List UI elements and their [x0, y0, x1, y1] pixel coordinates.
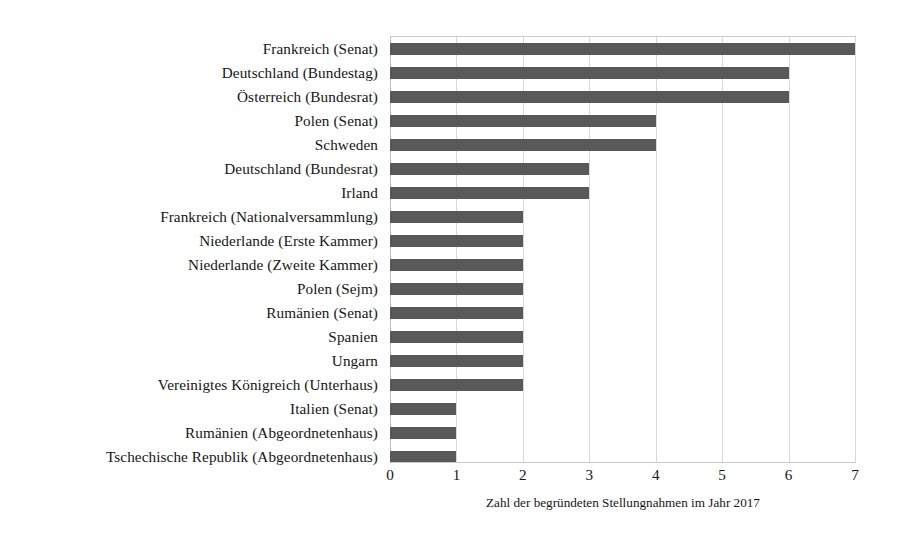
- category-label: Rumänien (Abgeordnetenhaus): [185, 421, 378, 445]
- bar-row: [390, 37, 855, 61]
- category-label: Niederlande (Erste Kammer): [199, 229, 378, 253]
- bar: [390, 307, 523, 319]
- category-label: Schweden: [315, 133, 378, 157]
- category-label: Österreich (Bundesrat): [237, 85, 378, 109]
- bar: [390, 259, 523, 271]
- bar: [390, 331, 523, 343]
- bar: [390, 379, 523, 391]
- bar: [390, 139, 656, 151]
- bar-row: [390, 109, 855, 133]
- bar-row: [390, 325, 855, 349]
- category-label: Tschechische Republik (Abgeordnetenhaus): [106, 445, 378, 469]
- bar: [390, 67, 789, 79]
- bar: [390, 163, 589, 175]
- category-label: Spanien: [328, 325, 378, 349]
- category-label: Polen (Sejm): [297, 277, 378, 301]
- category-label: Polen (Senat): [294, 109, 378, 133]
- bar-row: [390, 133, 855, 157]
- x-tick-label: 3: [574, 466, 604, 484]
- gridline-7: [855, 37, 856, 462]
- category-label: Ungarn: [332, 349, 378, 373]
- x-axis-tick-labels: 01234567: [390, 466, 856, 490]
- bar-row: [390, 181, 855, 205]
- bar: [390, 115, 656, 127]
- bar: [390, 403, 456, 415]
- bar-row: [390, 421, 855, 445]
- bar: [390, 211, 523, 223]
- bar-row: [390, 61, 855, 85]
- x-tick-label: 0: [375, 466, 405, 484]
- bar-row: [390, 373, 855, 397]
- category-label: Frankreich (Senat): [263, 37, 378, 61]
- bar-row: [390, 277, 855, 301]
- bar-row: [390, 397, 855, 421]
- plot-area: [390, 37, 855, 462]
- x-tick-label: 6: [774, 466, 804, 484]
- plot-border-bottom: [390, 462, 856, 463]
- bar: [390, 235, 523, 247]
- bar-row: [390, 349, 855, 373]
- category-label: Niederlande (Zweite Kammer): [188, 253, 378, 277]
- bar: [390, 187, 589, 199]
- x-axis-title: Zahl der begründeten Stellungnahmen im J…: [390, 495, 856, 511]
- bar: [390, 283, 523, 295]
- bar-row: [390, 205, 855, 229]
- bar-row: [390, 85, 855, 109]
- bar-row: [390, 253, 855, 277]
- bar-row: [390, 229, 855, 253]
- x-tick-label: 7: [840, 466, 870, 484]
- category-label: Vereinigtes Königreich (Unterhaus): [158, 373, 378, 397]
- bar-row: [390, 157, 855, 181]
- category-label: Frankreich (Nationalversammlung): [160, 205, 378, 229]
- bar-chart: Frankreich (Senat)Deutschland (Bundestag…: [0, 0, 906, 551]
- category-label: Deutschland (Bundesrat): [224, 157, 378, 181]
- bar: [390, 91, 789, 103]
- x-tick-label: 1: [441, 466, 471, 484]
- bar-row: [390, 301, 855, 325]
- x-tick-label: 2: [508, 466, 538, 484]
- category-label: Italien (Senat): [290, 397, 378, 421]
- bar: [390, 355, 523, 367]
- category-label: Deutschland (Bundestag): [222, 61, 378, 85]
- category-axis-labels: Frankreich (Senat)Deutschland (Bundestag…: [0, 37, 384, 462]
- x-tick-label: 5: [707, 466, 737, 484]
- category-label: Irland: [341, 181, 378, 205]
- x-tick-label: 4: [641, 466, 671, 484]
- bar: [390, 427, 456, 439]
- bar: [390, 43, 855, 55]
- category-label: Rumänien (Senat): [266, 301, 378, 325]
